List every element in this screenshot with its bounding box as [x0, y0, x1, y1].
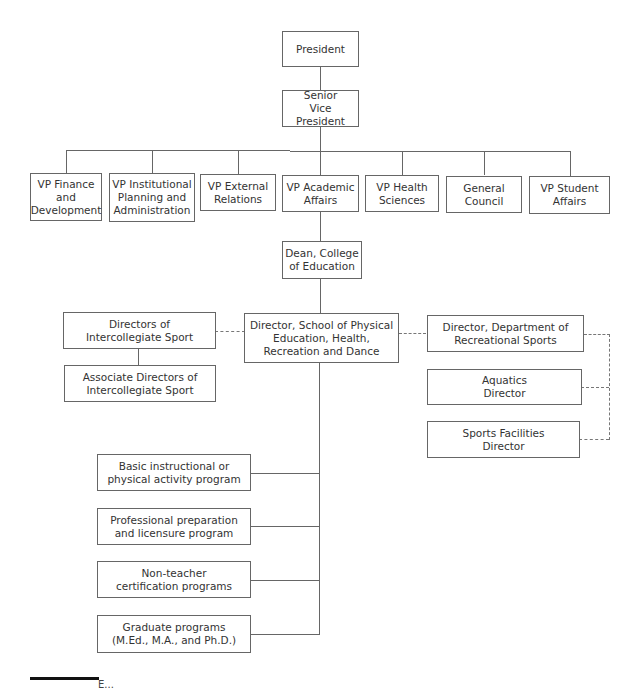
connector-vp-6: [484, 151, 485, 175]
program-graduate-box: Graduate programs (M.Ed., M.A., and Ph.D…: [97, 615, 251, 653]
general-council-box: General Council: [446, 176, 522, 213]
recreational-director-box: Director, Department of Recreational Spo…: [427, 315, 584, 352]
connector-program-3: [251, 580, 319, 581]
program-nonteacher-box: Non-teacher certification programs: [97, 561, 251, 598]
dashed-aquatics: [581, 387, 609, 388]
program-professional-box: Professional preparation and licensure p…: [97, 508, 251, 545]
caption-rule: [30, 677, 99, 680]
connector-vp-4: [320, 126, 321, 176]
president-box: President: [282, 31, 359, 67]
dashed-recreational-vertical: [609, 334, 610, 440]
intercollegiate-directors-box: Directors of Intercollegiate Sport: [63, 312, 216, 349]
director-school-box: Director, School of Physical Education, …: [244, 313, 399, 363]
connector-vp-1: [66, 150, 67, 175]
connector-vp-5: [402, 151, 403, 175]
connector-program-4-v: [319, 610, 320, 635]
connector-academic-dean: [320, 212, 321, 242]
connector-program-4: [251, 634, 319, 635]
program-basic-box: Basic instructional or physical activity…: [97, 454, 251, 491]
connector-vp-bus-right: [290, 151, 571, 152]
vp-external-box: VP External Relations: [200, 174, 276, 211]
facilities-director-box: Sports Facilities Director: [427, 421, 580, 458]
connector-intercollegiate-associate: [138, 348, 139, 366]
dashed-facilities: [579, 439, 609, 440]
dashed-director-recreational: [399, 333, 426, 334]
connector-vp-bus: [66, 150, 290, 151]
vp-academic-box: VP Academic Affairs: [282, 175, 359, 212]
connector-vp-7: [570, 151, 571, 176]
vp-finance-box: VP Finance and Development: [30, 173, 102, 221]
connector-director-programs: [319, 362, 320, 620]
vp-student-box: VP Student Affairs: [529, 176, 610, 214]
connector-program-1: [251, 473, 319, 474]
connector-dean-director: [320, 278, 321, 314]
aquatics-director-box: Aquatics Director: [427, 369, 582, 405]
connector-vp-3: [238, 150, 239, 175]
connector-vp-2: [152, 150, 153, 175]
dashed-intercollegiate-director: [215, 331, 245, 332]
associate-directors-box: Associate Directors of Intercollegiate S…: [64, 365, 216, 402]
figure-caption: E...: [98, 679, 114, 690]
dashed-recreational-right: [584, 334, 610, 335]
vp-institutional-box: VP Institutional Planning and Administra…: [109, 173, 195, 222]
senior-vp-box: Senior Vice President: [282, 90, 359, 127]
vp-health-box: VP Health Sciences: [365, 175, 439, 212]
connector-president-svp: [320, 66, 321, 90]
connector-program-2: [251, 526, 319, 527]
dean-box: Dean, College of Education: [282, 241, 362, 279]
